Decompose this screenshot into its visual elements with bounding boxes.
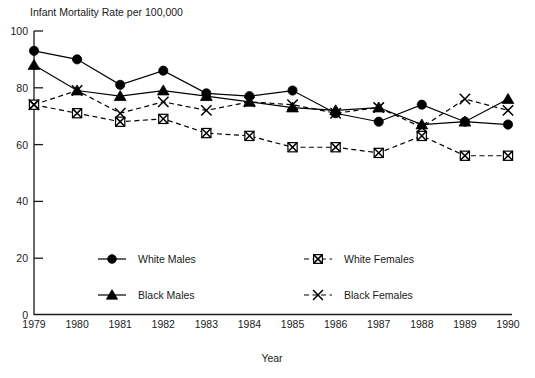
x-tick-label-1979: 1979 — [22, 318, 46, 330]
marker-filled-circle — [159, 66, 168, 75]
legend-item-white-females[interactable]: White Females — [304, 253, 414, 265]
marker-filled-circle — [417, 100, 426, 109]
y-tick-label-80: 80 — [16, 82, 28, 94]
y-tick-label-100: 100 — [10, 25, 28, 37]
infant-mortality-line-chart: Infant Mortality Rate per 100,000 100 80… — [0, 0, 535, 378]
marker-filled-circle — [116, 80, 125, 89]
x-tick-label-1988: 1988 — [410, 318, 434, 330]
x-tick-label-1990: 1990 — [496, 318, 520, 330]
legend-label: White Females — [344, 253, 414, 265]
marker-open-square-x — [374, 148, 383, 157]
marker-filled-circle — [108, 255, 117, 264]
x-tick-label-1982: 1982 — [152, 318, 176, 330]
marker-open-square-x — [202, 128, 211, 137]
marker-open-square-x — [331, 143, 340, 152]
y-tick-label-60: 60 — [16, 139, 28, 151]
legend-item-white-males[interactable]: White Males — [98, 253, 196, 265]
marker-filled-circle — [374, 117, 383, 126]
marker-filled-circle — [72, 55, 81, 64]
y-tick-label-40: 40 — [16, 195, 28, 207]
x-tick-label-1980: 1980 — [65, 318, 89, 330]
marker-open-square-x — [314, 255, 323, 264]
marker-open-square-x — [116, 117, 125, 126]
chart-title: Infant Mortality Rate per 100,000 — [30, 6, 183, 18]
y-tick-label-20: 20 — [16, 252, 28, 264]
legend-label: Black Males — [138, 289, 195, 301]
marker-open-square-x — [460, 151, 469, 160]
x-tick-label-1987: 1987 — [367, 318, 391, 330]
marker-open-square-x — [503, 151, 512, 160]
legend-label: Black Females — [344, 289, 413, 301]
x-tick-label-1989: 1989 — [453, 318, 477, 330]
marker-open-square-x — [288, 143, 297, 152]
marker-open-square-x — [72, 109, 81, 118]
marker-open-square-x — [245, 131, 254, 140]
legend-item-black-males[interactable]: Black Males — [98, 289, 195, 301]
x-axis-title: Year — [261, 352, 283, 364]
marker-open-square-x — [159, 114, 168, 123]
marker-filled-circle — [503, 120, 512, 129]
marker-open-square-x — [417, 131, 426, 140]
x-tick-label-1984: 1984 — [238, 318, 262, 330]
x-tick-label-1981: 1981 — [109, 318, 133, 330]
legend-label: White Males — [138, 253, 196, 265]
x-tick-label-1985: 1985 — [281, 318, 305, 330]
x-tick-label-1986: 1986 — [324, 318, 348, 330]
x-tick-label-1983: 1983 — [195, 318, 219, 330]
marker-filled-circle — [288, 86, 297, 95]
marker-filled-circle — [29, 46, 38, 55]
